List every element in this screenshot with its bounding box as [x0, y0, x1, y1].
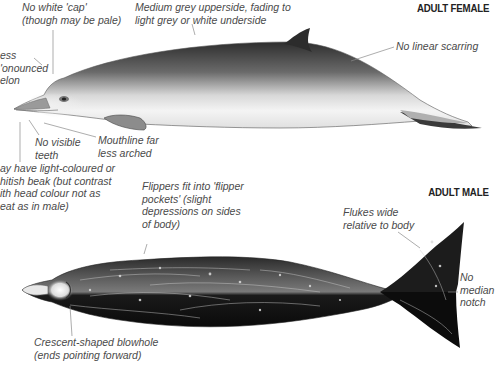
notch-annotation: No median notch [460, 271, 494, 309]
male-whale-illustration [22, 222, 464, 348]
scarring-annotation: No linear scarring [396, 40, 478, 53]
male-heading: ADULT MALE [429, 186, 489, 198]
flippers-annotation: Flippers fit into 'flipper pockets' (sli… [142, 180, 244, 230]
mouthline-annotation: Mouthline far less arched [98, 134, 159, 159]
blowhole-annotation: Crescent-shaped blowhole (ends pointing … [34, 336, 158, 361]
flukes-annotation: Flukes wide relative to body [343, 206, 414, 231]
beak-annotation: ay have light-coloured or hitish beak (b… [0, 162, 115, 212]
cap-annotation: No white 'cap' (though may be pale) [22, 1, 121, 26]
colour-annotation: Medium grey upperside, fading to light g… [135, 1, 291, 26]
melon-annotation: ess 'onounced elon [0, 49, 48, 87]
female-heading: ADULT FEMALE [417, 2, 489, 14]
teeth-annotation: No visible teeth [35, 136, 81, 161]
